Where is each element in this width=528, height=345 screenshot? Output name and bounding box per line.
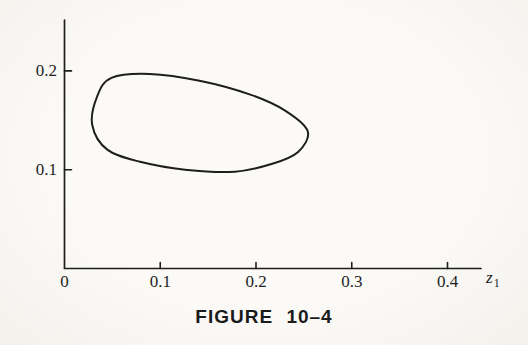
x-axis-variable-subscript: 1 <box>494 276 500 290</box>
axis-ticks <box>65 71 448 269</box>
x-tick-label-0.2: 0.2 <box>234 272 278 292</box>
x-axis-variable-base: z <box>486 268 493 287</box>
x-tick-label-0: 0 <box>43 272 87 292</box>
x-tick-label-0.4: 0.4 <box>426 272 470 292</box>
x-tick-label-0.3: 0.3 <box>330 272 374 292</box>
confidence-contour-curve <box>92 74 308 172</box>
axes-line <box>65 20 482 269</box>
figure-caption: FIGURE 10–4 <box>0 306 528 328</box>
y-tick-label-0.2: 0.2 <box>17 61 57 81</box>
x-tick-label-0.1: 0.1 <box>138 272 182 292</box>
figure-10-4: 00.10.20.30.40.10.2 z1 FIGURE 10–4 <box>0 0 528 345</box>
x-axis-variable-label: z1 <box>486 268 499 288</box>
y-tick-label-0.1: 0.1 <box>17 160 57 180</box>
plot-area <box>0 0 528 345</box>
